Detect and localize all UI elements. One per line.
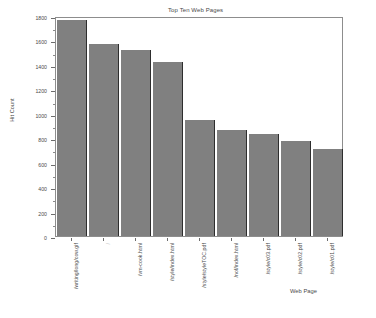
x-tick [327, 238, 328, 241]
bar [313, 149, 343, 236]
x-axis-label: Web Page [290, 288, 317, 294]
y-tick-label: 0 [44, 235, 47, 241]
x-tick-label: /style/c02.pdf [297, 243, 303, 274]
bar [249, 134, 279, 236]
y-tick-label: 1800 [35, 15, 47, 21]
bars-container [56, 18, 342, 236]
x-tick-label: /style/index.html [169, 243, 175, 281]
y-tick-label: 1200 [35, 88, 47, 94]
y-tick-label: 400 [38, 186, 47, 192]
y-tick-label: 800 [38, 137, 47, 143]
x-tick [295, 238, 296, 241]
bar [185, 120, 215, 236]
x-tick-label: /writing/long/cow.gif [73, 243, 79, 289]
bar [57, 20, 87, 236]
bar-chart-figure: Top Ten Web Pages Hit Count 020040060080… [0, 0, 376, 318]
y-axis: 020040060080010001200140016001800 [0, 17, 55, 238]
bar [89, 44, 119, 237]
x-tick [167, 238, 168, 241]
x-tick-label: /style/c03.pdf [265, 243, 271, 274]
x-tick [231, 238, 232, 241]
x-tick [135, 238, 136, 241]
bar [121, 50, 151, 236]
x-tick-label: /vm-cook.html [137, 243, 143, 276]
x-tick-label: /style/styleTOC.pdf [201, 243, 207, 288]
bar [153, 62, 183, 236]
y-tick-label: 600 [38, 162, 47, 168]
x-tick [199, 238, 200, 241]
x-tick-label: /style/c01.pdf [329, 243, 335, 274]
plot-area [55, 17, 343, 237]
x-tick [71, 238, 72, 241]
y-tick-label: 1400 [35, 64, 47, 70]
x-tick [103, 238, 104, 241]
bar [281, 141, 311, 236]
x-tick-label: / [105, 243, 111, 245]
chart-title: Top Ten Web Pages [168, 7, 223, 13]
x-tick-label: /nof/index.html [233, 243, 239, 278]
y-tick-label: 1000 [35, 113, 47, 119]
x-tick [263, 238, 264, 241]
bar [217, 130, 247, 236]
y-tick-label: 200 [38, 211, 47, 217]
y-tick-label: 1600 [35, 39, 47, 45]
